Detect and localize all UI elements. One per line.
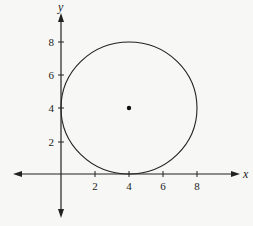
y-ticks: 2 4 6 8 [49, 36, 65, 148]
y-axis-label: y [57, 0, 64, 14]
y-tick-label-6: 6 [49, 69, 55, 81]
x-tick-label-2: 2 [92, 180, 98, 192]
y-tick-label-4: 4 [49, 102, 55, 114]
y-axis-up-arrow-icon [58, 13, 64, 22]
x-tick-label-6: 6 [160, 180, 166, 192]
x-axis-right-arrow-icon [231, 171, 240, 177]
coordinate-diagram: 2 4 6 8 2 4 6 8 x y [0, 0, 253, 226]
x-tick-label-4: 4 [126, 180, 132, 192]
circle-center-point [127, 106, 131, 110]
y-tick-label-2: 2 [49, 136, 55, 148]
x-tick-label-8: 8 [194, 180, 200, 192]
y-axis-down-arrow-icon [58, 209, 64, 218]
y-tick-label-8: 8 [49, 36, 55, 48]
x-axis-label: x [242, 167, 249, 181]
x-axis-left-arrow-icon [13, 171, 22, 177]
diagram-canvas: 2 4 6 8 2 4 6 8 x y [0, 0, 253, 226]
